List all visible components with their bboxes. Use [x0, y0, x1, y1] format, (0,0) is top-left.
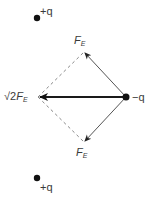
lower-force-label-sub: E: [83, 152, 88, 159]
upper-force-label: FE: [74, 35, 85, 47]
resultant-force-label-sub: E: [23, 96, 28, 103]
dashed-line-upper: [38, 52, 84, 97]
lower-force-arrow: [85, 97, 126, 141]
lower-force-label-main: F: [76, 146, 83, 158]
charge-dot-center: [123, 94, 130, 101]
upper-force-arrow: [85, 53, 126, 97]
upper-force-label-sub: E: [81, 40, 86, 47]
resultant-force-label: √2FE: [4, 91, 28, 103]
charge-label-center: −q: [132, 92, 145, 103]
lower-force-label: FE: [76, 147, 87, 159]
charge-label-bottom: +q: [40, 182, 53, 193]
dashed-line-lower: [38, 97, 84, 142]
upper-force-label-main: F: [74, 34, 81, 46]
resultant-force-label-main: F: [16, 90, 23, 102]
charge-label-top: +q: [40, 6, 53, 17]
resultant-force-label-prefix: √2: [4, 90, 16, 102]
